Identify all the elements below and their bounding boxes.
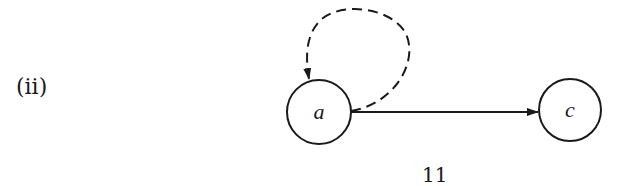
node-c-label: c [565, 97, 575, 122]
node-a: a [287, 80, 351, 144]
state-diagram: a c [0, 0, 617, 186]
node-c: c [539, 79, 601, 141]
page-number: 11 [422, 163, 447, 186]
node-a-label: a [314, 99, 325, 124]
